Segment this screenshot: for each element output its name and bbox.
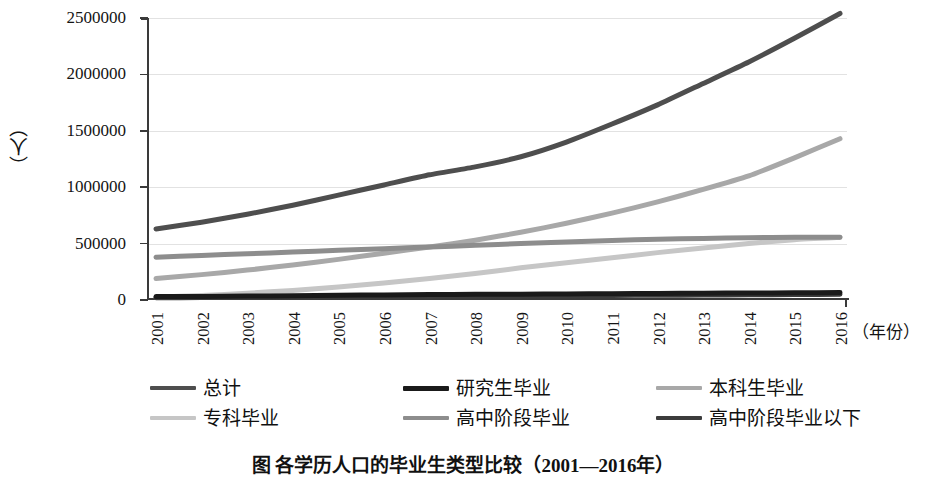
legend-row: 专科毕业 高中阶段毕业 高中阶段毕业以下 bbox=[150, 404, 910, 432]
legend-row: 总计 研究生毕业 本科生毕业 bbox=[150, 374, 910, 402]
legend-swatch-icon bbox=[656, 416, 702, 420]
x-axis-tick-label: 2002 bbox=[194, 312, 214, 345]
y-axis-top-cap bbox=[141, 18, 148, 20]
x-axis-tick-label: 2015 bbox=[786, 312, 806, 345]
legend-swatch-icon bbox=[403, 416, 449, 420]
legend-label: 本科生毕业 bbox=[709, 379, 804, 398]
legend-swatch-icon bbox=[150, 416, 196, 420]
x-axis-tick-label: 2007 bbox=[422, 312, 442, 345]
x-axis-tick-label: 2016 bbox=[832, 312, 852, 345]
x-axis-tick-label: 2004 bbox=[285, 312, 305, 345]
plot-area bbox=[148, 18, 848, 300]
legend-item-undergraduate[interactable]: 本科生毕业 bbox=[656, 374, 909, 402]
legend-swatch-icon bbox=[150, 386, 196, 390]
x-axis-tick-label: 2005 bbox=[330, 312, 350, 345]
x-axis-tick-label: 2006 bbox=[376, 312, 396, 345]
y-axis-tick-label: 500000 bbox=[75, 235, 126, 252]
y-axis-tick-label: 0 bbox=[118, 291, 127, 308]
legend-label: 专科毕业 bbox=[203, 409, 279, 428]
y-axis-tick-label: 1000000 bbox=[67, 178, 127, 195]
x-axis-tick-label: 2010 bbox=[558, 312, 578, 345]
x-axis-tick-label: 2001 bbox=[148, 312, 168, 345]
legend-item-junior-college[interactable]: 专科毕业 bbox=[150, 404, 403, 432]
legend-label: 研究生毕业 bbox=[456, 379, 551, 398]
x-axis-title: （年份） bbox=[852, 318, 920, 343]
x-axis-tick-label: 2009 bbox=[513, 312, 533, 345]
chart-legend: 总计 研究生毕业 本科生毕业 专科毕业 高中阶段毕业 高中阶段毕业以下 bbox=[150, 374, 910, 434]
y-axis-tick-label: 1500000 bbox=[67, 122, 127, 139]
x-axis-tick-label: 2011 bbox=[604, 312, 624, 344]
legend-item-postgraduate[interactable]: 研究生毕业 bbox=[403, 374, 656, 402]
x-axis-tick-label: 2003 bbox=[239, 312, 259, 345]
legend-item-total[interactable]: 总计 bbox=[150, 374, 403, 402]
legend-item-below-high-school[interactable]: 高中阶段毕业以下 bbox=[656, 404, 909, 432]
legend-swatch-icon bbox=[403, 386, 449, 391]
y-axis-label: （人） bbox=[6, 118, 33, 175]
legend-label: 总计 bbox=[203, 379, 241, 398]
x-axis-tick-label: 2008 bbox=[467, 312, 487, 345]
y-axis-tick-label: 2500000 bbox=[67, 9, 127, 26]
series-line bbox=[156, 13, 840, 228]
legend-label: 高中阶段毕业 bbox=[456, 409, 570, 428]
x-axis-tick-label: 2013 bbox=[695, 312, 715, 345]
x-axis-tick-label: 2014 bbox=[741, 312, 761, 345]
y-axis-tick-label: 2000000 bbox=[67, 65, 127, 82]
series-layer bbox=[148, 18, 848, 300]
x-axis-tick-label: 2012 bbox=[650, 312, 670, 345]
legend-item-high-school[interactable]: 高中阶段毕业 bbox=[403, 404, 656, 432]
legend-swatch-icon bbox=[656, 386, 702, 390]
figure-caption: 图 各学历人口的毕业生类型比较（2001—2016年） bbox=[0, 450, 926, 477]
legend-label: 高中阶段毕业以下 bbox=[709, 409, 861, 428]
